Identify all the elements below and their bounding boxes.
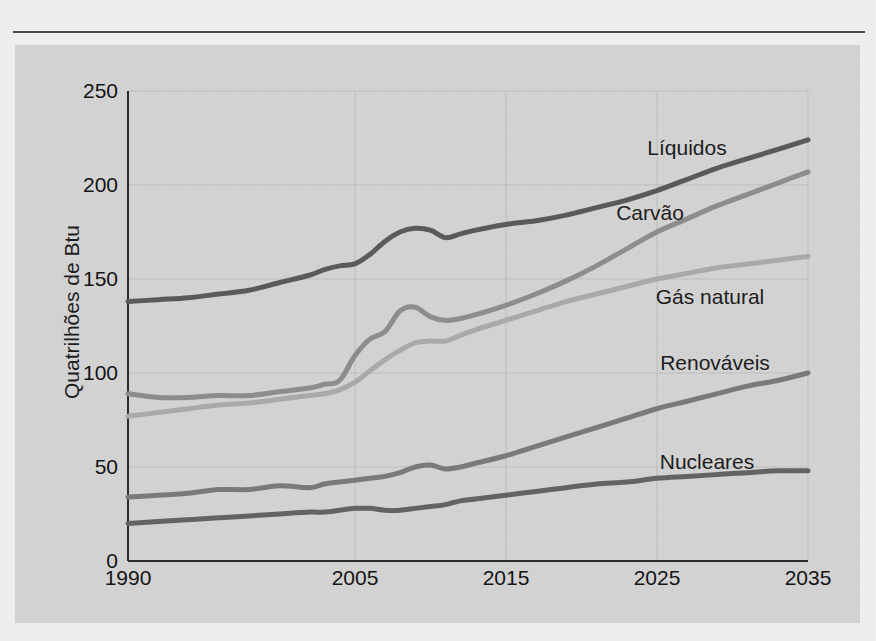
series-line-g-s-natural <box>128 256 808 416</box>
series-label-nucleares: Nucleares <box>660 450 755 474</box>
series-line-l-quidos <box>128 140 808 302</box>
series-label-liquidos: Líquidos <box>647 136 726 160</box>
series-label-renovaveis: Renováveis <box>660 351 770 375</box>
series-label-gas: Gás natural <box>656 285 765 309</box>
series-label-carvao: Carvão <box>616 201 684 225</box>
series-line-renov-veis <box>128 373 808 497</box>
line-chart: Quatrilhões de Btu 250 200 150 100 50 0 … <box>0 0 876 641</box>
plot-svg <box>0 0 876 641</box>
series-line-nucleares <box>128 471 808 524</box>
